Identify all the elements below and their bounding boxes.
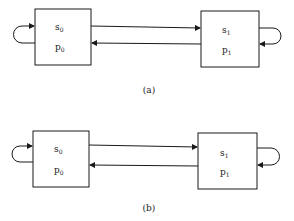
state-label-p-a-left: p0 (55, 42, 65, 53)
state-label-s-a-left: s0 (55, 22, 64, 33)
diagram-a: s0 p0 s1 p1 (a) (14, 9, 282, 95)
state-label-p-a-right: p1 (222, 45, 232, 56)
caption-b: (b) (143, 203, 156, 213)
state-label-p-b-left: p0 (54, 165, 64, 176)
state-label-s-b-left: s0 (54, 144, 63, 155)
self-loop-arrow-s0-b (12, 146, 33, 162)
state-diagram-canvas: s0 p0 s1 p1 (a) s0 p0 s1 p1 (b) (0, 0, 294, 221)
state-label-s-a-right: s1 (222, 25, 230, 36)
self-loop-arrow-s0-a (14, 26, 36, 43)
transition-arrow-s1-to-s0-b (90, 165, 198, 166)
state-box-s0-b (33, 131, 89, 187)
state-box-s1-b (198, 133, 257, 189)
self-loop-arrow-s1-b (257, 148, 280, 165)
self-loop-arrow-s1-a (259, 28, 281, 44)
transition-arrow-s1-to-s0-a (92, 43, 201, 44)
state-label-s-b-right: s1 (220, 148, 228, 159)
state-box-s1-a (201, 11, 259, 67)
transition-arrow-s0-to-s1-a (91, 26, 200, 28)
transition-arrow-s0-to-s1-b (89, 145, 197, 147)
state-label-p-b-right: p1 (220, 167, 230, 178)
diagram-b: s0 p0 s1 p1 (b) (12, 131, 280, 213)
caption-a: (a) (143, 85, 155, 95)
state-box-s0-a (35, 9, 91, 65)
